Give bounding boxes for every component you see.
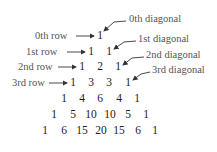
cell-r6-c2: 15	[76, 125, 88, 137]
diagonal-2-arrow-icon	[123, 57, 144, 65]
cell-r1-c1: 1	[106, 46, 112, 58]
cell-r1-c0: 1	[88, 46, 94, 58]
cell-r2-c0: 1	[79, 61, 85, 73]
cell-r4-c2: 6	[97, 93, 103, 105]
diagonal-label-1: 1st diagonal	[138, 34, 189, 45]
cell-r4-c3: 4	[116, 93, 122, 105]
cell-r6-c0: 1	[42, 125, 48, 137]
row-label-0: 0th row	[35, 31, 67, 42]
cell-r4-c0: 1	[61, 93, 67, 105]
cell-r5-c1: 5	[70, 109, 76, 121]
cell-r5-c2: 10	[85, 109, 97, 121]
cell-r4-c1: 4	[79, 93, 85, 105]
cell-r5-c3: 10	[104, 109, 116, 121]
diagonal-0-arrow-icon	[104, 21, 126, 31]
row-label-3: 3rd row	[12, 78, 45, 89]
cell-r6-c4: 15	[113, 125, 125, 137]
cell-r6-c6: 1	[152, 125, 158, 137]
cell-r2-c2: 1	[115, 61, 121, 73]
cell-r3-c1: 3	[88, 77, 94, 89]
cell-r5-c0: 1	[51, 109, 57, 121]
diagonal-1-arrow-icon	[114, 41, 136, 49]
cell-r5-c5: 1	[143, 109, 149, 121]
cell-r5-c4: 5	[125, 109, 131, 121]
cell-r4-c4: 1	[134, 93, 140, 105]
row-label-1: 1st row	[26, 47, 57, 58]
cell-r6-c3: 20	[95, 125, 107, 137]
diagonal-label-2: 2nd diagonal	[146, 50, 201, 61]
diagonal-3-arrow-icon	[133, 72, 150, 80]
cell-r2-c1: 2	[97, 61, 103, 73]
cell-r3-c3: 1	[125, 77, 131, 89]
cell-r3-c2: 3	[106, 77, 112, 89]
cell-r6-c5: 6	[135, 125, 141, 137]
row-label-2: 2nd row	[18, 62, 53, 73]
diagonal-label-0: 0th diagonal	[129, 14, 181, 25]
cell-r3-c0: 1	[70, 77, 76, 89]
cell-r6-c1: 6	[61, 125, 67, 137]
cell-r0-c0: 1	[97, 30, 103, 42]
diagonal-label-3: 3rd diagonal	[152, 65, 205, 76]
